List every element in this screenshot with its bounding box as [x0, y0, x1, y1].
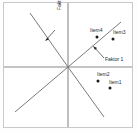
factor2-vector-line [30, 13, 68, 67]
data-label-item4: Item4 [90, 28, 103, 33]
data-point-item4[interactable] [96, 36, 99, 39]
data-label-item1: Item1 [109, 80, 122, 85]
data-label-item3: Item3 [113, 30, 126, 35]
data-point-item1[interactable] [109, 87, 112, 90]
data-label-item2: Item2 [97, 72, 110, 77]
reference-line-lower-left [15, 67, 68, 112]
faktor1-axis-label: Faktor 1 [105, 57, 123, 62]
data-point-item3[interactable] [112, 38, 115, 41]
scatter-plot-figure: Item4 Item3 Item2 Item1 Faktor 2 Faktor … [0, 0, 137, 132]
plot-canvas [0, 0, 137, 132]
data-point-item2[interactable] [97, 80, 100, 83]
faktor2-axis-label: Faktor 2 [57, 0, 62, 10]
